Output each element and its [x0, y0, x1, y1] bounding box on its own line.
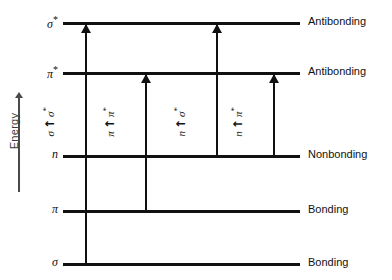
orbital-label-pi: π — [28, 202, 58, 217]
level-class-label-sigma: Bonding — [308, 256, 348, 268]
transition-label-n-to-pi-star: n↑π* — [229, 89, 245, 155]
orbital-label-pi-star: π* — [28, 64, 58, 82]
transition-arrow-sigma-to-sigma-star — [85, 23, 87, 264]
transition-arrowhead-n-to-sigma-star — [212, 24, 222, 33]
orbital-label-sigma-star: σ* — [28, 14, 58, 32]
transition-label-sigma-to-sigma-star: σ↑σ* — [41, 89, 57, 155]
energy-level-line-n — [63, 155, 300, 158]
transition-label-pi-to-pi-star: π↑π* — [101, 89, 117, 155]
energy-level-line-sigma — [63, 263, 300, 266]
level-class-label-n: Nonbonding — [308, 148, 367, 160]
mo-energy-diagram: Energy σ*Antibondingπ*AntibondingnNonbon… — [0, 0, 392, 280]
transition-arrowhead-sigma-to-sigma-star — [81, 24, 91, 33]
transition-arrow-pi-to-pi-star — [145, 73, 147, 211]
transition-arrowhead-pi-to-pi-star — [141, 74, 151, 83]
energy-level-line-pi — [63, 210, 300, 213]
transition-arrow-n-to-sigma-star — [216, 23, 218, 156]
level-class-label-pi: Bonding — [308, 203, 348, 215]
transition-arrowhead-n-to-pi-star — [269, 74, 279, 83]
orbital-label-sigma: σ — [28, 255, 58, 270]
transition-label-n-to-sigma-star: n↑σ* — [172, 89, 188, 155]
transition-arrow-n-to-pi-star — [273, 73, 275, 156]
energy-level-line-sigma-star — [63, 22, 300, 25]
level-class-label-pi-star: Antibonding — [308, 65, 366, 77]
level-class-label-sigma-star: Antibonding — [308, 15, 366, 27]
energy-level-line-pi-star — [63, 72, 300, 75]
energy-axis-label: Energy — [8, 96, 20, 166]
